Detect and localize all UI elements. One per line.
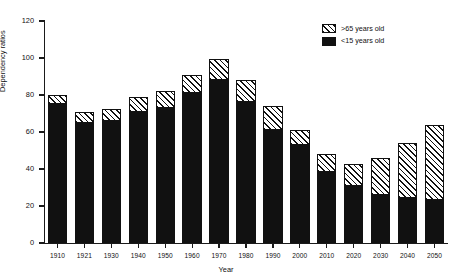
bar-2020 bbox=[344, 164, 363, 243]
x-tick bbox=[111, 243, 112, 248]
bar-2030 bbox=[371, 158, 390, 243]
legend-item-over65: >65 years old bbox=[322, 24, 384, 33]
bar-segment-under15 bbox=[425, 200, 444, 243]
dependency-ratio-chart: 020406080100120 191019211930194019501960… bbox=[0, 0, 452, 279]
bar-segment-under15 bbox=[129, 112, 148, 243]
bar-1980 bbox=[236, 80, 255, 243]
x-tick bbox=[218, 243, 219, 248]
bar-segment-over65 bbox=[398, 143, 417, 198]
bar-segment-over65 bbox=[102, 109, 121, 121]
x-tick bbox=[434, 243, 435, 248]
bar-segment-over65 bbox=[344, 164, 363, 185]
bar-1910 bbox=[48, 95, 67, 243]
x-tick bbox=[84, 243, 85, 248]
bar-segment-under15 bbox=[317, 172, 336, 243]
x-tick bbox=[138, 243, 139, 248]
bar-2040 bbox=[398, 143, 417, 243]
bar-1970 bbox=[209, 59, 228, 243]
bar-2050 bbox=[425, 125, 444, 243]
bar-segment-under15 bbox=[209, 80, 228, 243]
x-tick bbox=[245, 243, 246, 248]
hatched-swatch-icon bbox=[322, 24, 336, 33]
y-tick-label: 80 bbox=[0, 91, 34, 98]
legend-label-under15: <15 years old bbox=[341, 37, 384, 44]
x-tick bbox=[165, 243, 166, 248]
bar-1930 bbox=[102, 109, 121, 243]
bar-1940 bbox=[129, 97, 148, 243]
bar-segment-under15 bbox=[290, 145, 309, 243]
bar-segment-under15 bbox=[75, 123, 94, 243]
bar-segment-under15 bbox=[48, 104, 67, 243]
x-tick bbox=[57, 243, 58, 248]
y-tick-label: 40 bbox=[0, 165, 34, 172]
legend-label-over65: >65 years old bbox=[341, 25, 384, 32]
bar-series-group bbox=[44, 21, 448, 243]
bar-segment-over65 bbox=[48, 95, 67, 104]
bar-segment-over65 bbox=[263, 106, 282, 130]
x-tick bbox=[407, 243, 408, 248]
bar-1921 bbox=[75, 112, 94, 243]
bar-2010 bbox=[317, 154, 336, 243]
bar-segment-under15 bbox=[263, 130, 282, 243]
bar-segment-over65 bbox=[182, 75, 201, 94]
y-axis-title: Dependency ratios bbox=[0, 30, 7, 92]
y-tick-label: 20 bbox=[0, 202, 34, 209]
x-tick-label: 2050 bbox=[418, 252, 452, 259]
bar-1960 bbox=[182, 75, 201, 243]
x-tick bbox=[326, 243, 327, 248]
bar-segment-over65 bbox=[75, 112, 94, 123]
bar-segment-over65 bbox=[317, 154, 336, 172]
bar-2000 bbox=[290, 130, 309, 243]
bar-segment-under15 bbox=[344, 186, 363, 243]
y-tick-label: 60 bbox=[0, 128, 34, 135]
x-tick bbox=[380, 243, 381, 248]
bar-segment-under15 bbox=[398, 198, 417, 243]
y-tick-label: 0 bbox=[0, 239, 34, 246]
chart-legend: >65 years old <15 years old bbox=[322, 24, 384, 49]
bar-1950 bbox=[156, 91, 175, 243]
bar-segment-over65 bbox=[371, 158, 390, 195]
bar-1990 bbox=[263, 106, 282, 243]
black-swatch-icon bbox=[322, 37, 336, 46]
bar-segment-over65 bbox=[290, 130, 309, 145]
bar-segment-under15 bbox=[182, 93, 201, 243]
x-tick bbox=[299, 243, 300, 248]
x-tick bbox=[353, 243, 354, 248]
x-axis-title: Year bbox=[0, 265, 452, 274]
y-tick-label: 120 bbox=[0, 17, 34, 24]
bar-segment-under15 bbox=[156, 108, 175, 243]
bar-segment-under15 bbox=[236, 102, 255, 243]
bar-segment-over65 bbox=[425, 125, 444, 200]
bar-segment-over65 bbox=[156, 91, 175, 108]
bar-segment-over65 bbox=[209, 59, 228, 80]
x-tick bbox=[272, 243, 273, 248]
x-tick bbox=[192, 243, 193, 248]
bar-segment-under15 bbox=[102, 121, 121, 243]
bar-segment-under15 bbox=[371, 195, 390, 243]
bar-segment-over65 bbox=[236, 80, 255, 102]
bar-segment-over65 bbox=[129, 97, 148, 112]
legend-item-under15: <15 years old bbox=[322, 37, 384, 46]
